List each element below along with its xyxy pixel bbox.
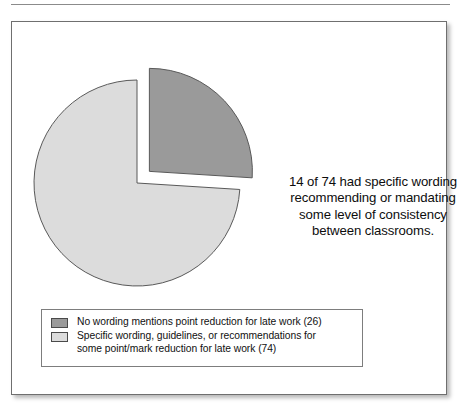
legend-swatch-dark-icon xyxy=(51,318,68,328)
pie-chart-svg xyxy=(12,22,282,312)
legend-label-no-wording: No wording mentions point reduction for … xyxy=(77,315,322,328)
legend-swatch-light-icon xyxy=(51,332,68,342)
legend-item-specific-wording: Specific wording, guidelines, or recomme… xyxy=(42,329,362,355)
pie-annotation-text: 14 of 74 had specific wording recommendi… xyxy=(289,174,457,240)
top-horizontal-rule xyxy=(11,4,450,5)
figure-panel: 14 of 74 had specific wording recommendi… xyxy=(11,21,447,395)
legend-item-no-wording: No wording mentions point reduction for … xyxy=(42,315,362,328)
pie-chart xyxy=(12,22,282,312)
legend: No wording mentions point reduction for … xyxy=(41,309,363,367)
pie-slice-no-wording xyxy=(149,68,252,177)
legend-label-specific-wording: Specific wording, guidelines, or recomme… xyxy=(77,329,316,355)
